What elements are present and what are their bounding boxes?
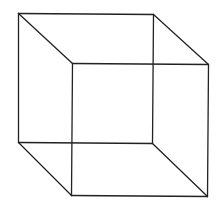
cube-edge-front-bottom-right-to-front-bottom-left: [72, 196, 208, 197]
cube-edge-back-bottom-left-to-front-bottom-left: [19, 143, 72, 196]
cube-edge-back-top-right-to-front-top-right: [154, 15, 209, 65]
cube-edge-front-top-left-to-front-top-right: [73, 64, 209, 65]
cube-edge-back-bottom-right-to-back-bottom-left: [19, 143, 153, 144]
cube-edge-front-top-right-to-front-bottom-right: [208, 65, 209, 197]
cube-edge-back-bottom-right-to-front-bottom-right: [153, 144, 208, 197]
wireframe-cube: [0, 0, 219, 207]
cube-edge-back-top-left-to-front-top-left: [19, 14, 73, 64]
cube-edge-back-top-left-to-back-top-right: [19, 14, 154, 15]
cube-edge-front-bottom-left-to-front-top-left: [72, 64, 73, 196]
cube-edge-back-top-right-to-back-bottom-right: [153, 15, 154, 144]
